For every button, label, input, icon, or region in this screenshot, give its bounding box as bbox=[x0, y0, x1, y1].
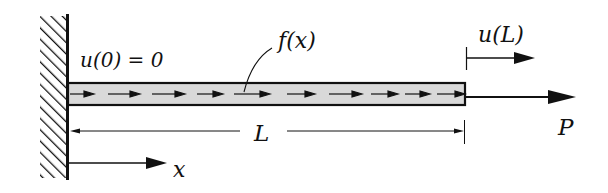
distributed-load-label: f(x) bbox=[276, 28, 316, 53]
boundary-condition-label: u(0) = 0 bbox=[80, 48, 164, 72]
x-axis-arrow bbox=[68, 157, 167, 169]
fixed-wall bbox=[40, 14, 68, 180]
x-axis-label: x bbox=[173, 157, 186, 182]
end-displacement-label: u(L) bbox=[478, 22, 524, 47]
end-load-arrow bbox=[465, 90, 576, 104]
end-load-label: P bbox=[557, 114, 574, 140]
end-displacement-arrow bbox=[466, 47, 535, 70]
bar-diagram: f(x) u(0) = 0 P u(L) L x bbox=[0, 0, 608, 193]
length-label: L bbox=[253, 120, 269, 146]
